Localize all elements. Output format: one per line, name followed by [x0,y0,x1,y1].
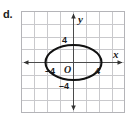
x-axis-label: x [113,49,119,60]
graph-canvas [21,11,125,113]
origin-label: O [64,65,71,75]
coordinate-graph: y x O –4 4 4 –4 [21,11,125,113]
problem-letter-label: d. [3,9,12,20]
y-axis-label: y [78,14,83,25]
x-tick-label-negative-4: –4 [45,67,55,76]
figure-container: d. [0,0,131,123]
x-tick-label-positive-4: 4 [95,67,100,76]
y-tick-label-positive-4: 4 [62,36,67,45]
y-tick-label-negative-4: –4 [59,82,69,91]
